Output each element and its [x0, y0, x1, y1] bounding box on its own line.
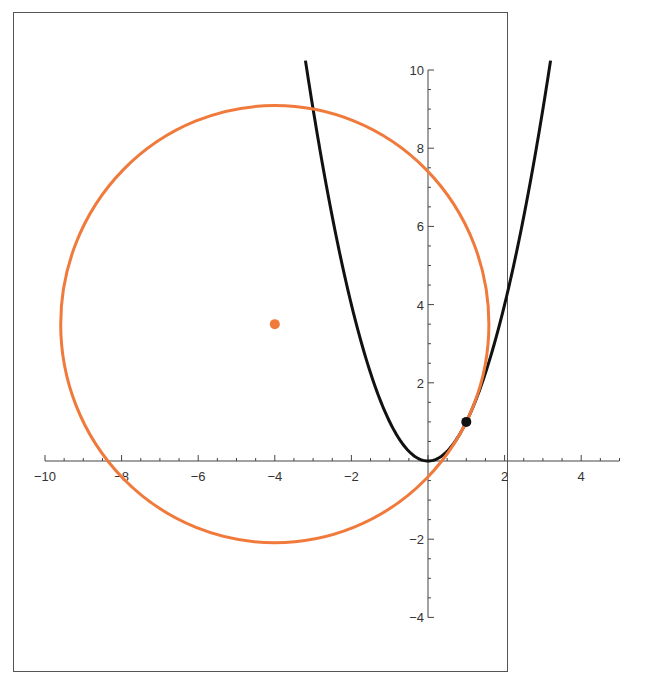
axes: −10−8−6−4−224−4−2246810 — [34, 63, 620, 625]
y-tick-label: −2 — [409, 532, 424, 547]
y-tick-label: −4 — [409, 610, 424, 625]
tangent-point-point — [461, 417, 471, 427]
x-tick-label: 4 — [578, 469, 585, 484]
x-tick-label: −4 — [267, 469, 282, 484]
y-tick-label: 8 — [417, 141, 424, 156]
x-tick-label: −6 — [191, 469, 206, 484]
y-tick-label: 4 — [417, 298, 424, 313]
x-tick-label: −2 — [344, 469, 359, 484]
y-tick-label: 6 — [417, 219, 424, 234]
y-tick-label: 2 — [417, 376, 424, 391]
series-layer — [61, 61, 551, 543]
circle-center-point — [270, 319, 280, 329]
y-tick-label: 10 — [410, 63, 424, 78]
x-tick-label: −10 — [34, 469, 56, 484]
x-tick-label: 2 — [501, 469, 508, 484]
plot-area: −10−8−6−4−224−4−2246810 — [0, 0, 663, 687]
